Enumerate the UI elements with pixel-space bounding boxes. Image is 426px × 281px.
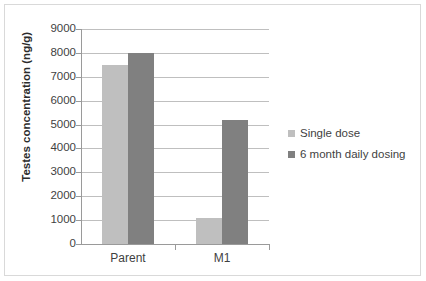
x-axis-separator-end bbox=[269, 244, 270, 250]
plot-area bbox=[81, 29, 269, 244]
chart-screenshot: Testes concentration (ng/g) 010002000300… bbox=[0, 0, 426, 281]
legend-label: Single dose bbox=[300, 128, 360, 140]
legend-swatch-icon bbox=[288, 151, 295, 158]
y-axis-title: Testes concentration (ng/g) bbox=[21, 17, 33, 197]
legend-swatch-icon bbox=[288, 130, 295, 137]
y-tick-label: 2000 bbox=[36, 190, 76, 202]
bar-m1-single-dose bbox=[196, 218, 222, 244]
y-tick-label: 6000 bbox=[36, 95, 76, 107]
bar-parent-single-dose bbox=[102, 65, 128, 244]
y-tick-label: 1000 bbox=[36, 214, 76, 226]
legend-label: 6 month daily dosing bbox=[300, 149, 405, 161]
x-axis-label-parent: Parent bbox=[78, 252, 178, 264]
y-tick-label: 8000 bbox=[36, 47, 76, 59]
bar-m1-6-month-daily-dosing bbox=[222, 120, 248, 244]
legend-item-6-month-daily-dosing[interactable]: 6 month daily dosing bbox=[288, 144, 405, 165]
y-tick-label: 3000 bbox=[36, 166, 76, 178]
legend-item-single-dose[interactable]: Single dose bbox=[288, 123, 405, 144]
y-tick-label: 0 bbox=[36, 238, 76, 250]
y-tick-label: 7000 bbox=[36, 71, 76, 83]
legend: Single dose6 month daily dosing bbox=[288, 123, 405, 165]
y-tick-label: 4000 bbox=[36, 142, 76, 154]
y-tick-label: 9000 bbox=[36, 23, 76, 35]
x-axis-separator bbox=[175, 244, 176, 250]
y-tick-label: 5000 bbox=[36, 119, 76, 131]
x-axis-label-m1: M1 bbox=[172, 252, 272, 264]
bar-parent-6-month-daily-dosing bbox=[128, 53, 154, 244]
chart-frame: Testes concentration (ng/g) 010002000300… bbox=[4, 4, 421, 276]
